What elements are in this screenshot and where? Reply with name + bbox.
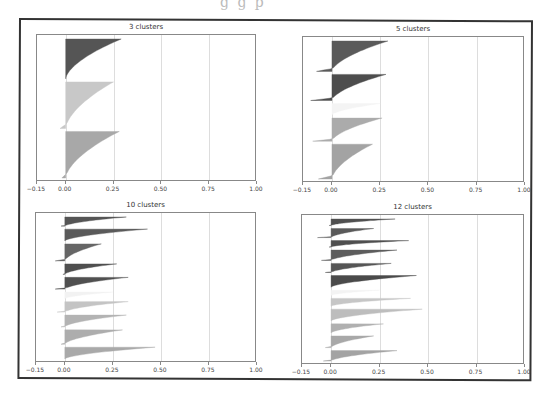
- x-tick-mark: [476, 364, 477, 367]
- x-tick-label: 0.25: [373, 186, 386, 193]
- x-tick-mark: [112, 362, 113, 365]
- cluster-silhouette: [331, 324, 383, 333]
- x-tick-mark: [524, 364, 525, 367]
- cluster-silhouette: [329, 241, 409, 248]
- x-tick-mark: [65, 181, 66, 184]
- cluster-silhouette: [321, 250, 397, 260]
- x-tick-mark: [379, 182, 380, 185]
- x-tick-label: −0.15: [293, 186, 311, 193]
- x-tick-label: 0.75: [201, 185, 214, 192]
- silhouette-areas: [302, 215, 525, 365]
- cluster-silhouette: [61, 315, 126, 327]
- x-tick-label: −0.15: [292, 368, 310, 375]
- cluster-silhouette: [55, 244, 101, 261]
- silhouette-areas: [303, 37, 525, 183]
- x-tick-label: 0.50: [154, 185, 167, 192]
- plot-axes: [301, 214, 524, 364]
- cluster-silhouette: [332, 103, 380, 115]
- plot-axes: [36, 34, 256, 181]
- x-tick-label: 0.50: [421, 186, 434, 193]
- x-tick-mark: [208, 181, 209, 184]
- panel-title: 3 clusters: [36, 23, 256, 31]
- cluster-silhouette: [329, 219, 395, 226]
- x-tick-label: 0.25: [372, 368, 385, 375]
- cluster-silhouette: [61, 330, 123, 344]
- x-tick-label: 1.00: [517, 186, 530, 193]
- x-tick-label: 0.00: [58, 185, 71, 192]
- x-tick-mark: [476, 182, 477, 185]
- silhouette-areas: [37, 35, 257, 182]
- x-tick-mark: [64, 362, 65, 365]
- x-tick-label: −0.15: [27, 185, 45, 192]
- cropped-page-text: g g p: [220, 0, 266, 10]
- cluster-silhouette: [66, 39, 122, 79]
- silhouette-areas: [36, 213, 257, 363]
- cluster-silhouette: [65, 229, 148, 241]
- cluster-silhouette: [317, 41, 388, 71]
- x-tick-mark: [113, 181, 114, 184]
- x-tick-label: 0.25: [106, 185, 119, 192]
- x-tick-mark: [160, 362, 161, 365]
- cluster-silhouette: [331, 290, 380, 295]
- cluster-silhouette: [55, 277, 128, 289]
- cluster-silhouette: [331, 298, 411, 306]
- x-tick-label: 0.50: [153, 366, 166, 373]
- cluster-silhouette: [62, 131, 119, 178]
- cluster-silhouette: [311, 74, 386, 100]
- x-tick-mark: [330, 364, 331, 367]
- plot-axes: [302, 36, 524, 182]
- x-tick-label: 1.00: [249, 185, 262, 192]
- x-tick-mark: [160, 181, 161, 184]
- cluster-silhouette: [325, 263, 391, 272]
- plot-axes: [35, 212, 256, 362]
- x-tick-mark: [302, 182, 303, 185]
- x-tick-mark: [427, 182, 428, 185]
- x-tick-label: 0.00: [324, 186, 337, 193]
- cluster-silhouette: [318, 228, 374, 237]
- x-tick-mark: [524, 182, 525, 185]
- cluster-silhouette: [65, 347, 155, 359]
- x-tick-label: 0.75: [201, 366, 214, 373]
- cluster-silhouette: [313, 118, 382, 141]
- x-tick-label: 0.75: [469, 368, 482, 375]
- x-tick-label: 1.00: [249, 366, 262, 373]
- x-tick-mark: [427, 364, 428, 367]
- x-tick-mark: [256, 181, 257, 184]
- cluster-silhouette: [323, 351, 397, 361]
- cluster-silhouette: [331, 309, 422, 321]
- cluster-silhouette: [318, 144, 372, 179]
- x-tick-label: 0.25: [105, 366, 118, 373]
- x-tick-mark: [256, 362, 257, 365]
- panel-title: 12 clusters: [301, 203, 524, 211]
- x-tick-mark: [36, 181, 37, 184]
- x-tick-label: −0.15: [26, 366, 44, 373]
- x-tick-mark: [35, 362, 36, 365]
- x-tick-label: 1.00: [517, 368, 530, 375]
- cluster-silhouette: [60, 82, 114, 129]
- x-tick-label: 0.00: [57, 366, 70, 373]
- panel-title: 10 clusters: [35, 201, 256, 209]
- x-tick-mark: [331, 182, 332, 185]
- cluster-silhouette: [331, 276, 416, 288]
- cluster-silhouette: [63, 264, 117, 275]
- x-tick-label: 0.00: [323, 368, 336, 375]
- x-tick-mark: [301, 364, 302, 367]
- x-tick-label: 0.50: [420, 368, 433, 375]
- x-tick-mark: [379, 364, 380, 367]
- cluster-silhouette: [61, 217, 126, 226]
- x-tick-mark: [208, 362, 209, 365]
- cluster-silhouette: [65, 292, 113, 299]
- panel-title: 5 clusters: [302, 25, 524, 33]
- cluster-silhouette: [57, 302, 128, 313]
- cluster-silhouette: [325, 336, 373, 348]
- x-tick-label: 0.75: [469, 186, 482, 193]
